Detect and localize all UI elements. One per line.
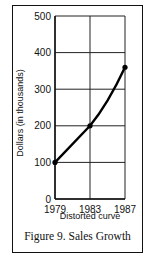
y-tick-label: 400 (34, 47, 51, 58)
y-tick-label: 500 (34, 11, 51, 22)
y-tick-label: 300 (34, 84, 51, 95)
data-point (122, 65, 127, 70)
y-tick-label: 200 (34, 120, 51, 131)
data-point (87, 123, 92, 128)
figure-caption: Figure 9. Sales Growth (12, 230, 143, 242)
y-axis-label: Dollars (in thousands) (15, 63, 25, 163)
chart-subcaption: Distorted curve (40, 211, 140, 221)
y-tick-label: 0 (45, 194, 51, 205)
y-tick-label: 100 (34, 157, 51, 168)
data-point (52, 160, 57, 165)
